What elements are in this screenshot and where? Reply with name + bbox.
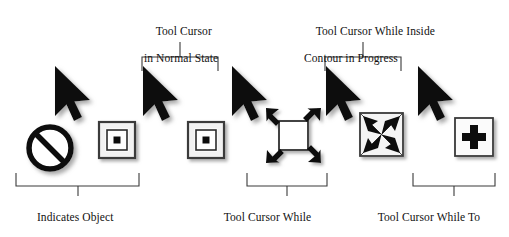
bracket-center-contour: [413, 173, 495, 196]
label-incompatible-line1: Indicates Object: [37, 211, 114, 223]
label-center-contour: Tool Cursor While To Center Contour in P…: [366, 197, 494, 237]
four-inward-arrows-square-icon: [360, 113, 403, 156]
group-incompatible: [29, 66, 135, 169]
label-inside-contour-line1: Tool Cursor While Inside: [316, 25, 435, 37]
bracket-outside-contour: [247, 173, 327, 196]
label-center-contour-line1: Tool Cursor While To: [378, 211, 481, 223]
label-normal-state-line1: Tool Cursor: [156, 25, 212, 37]
plus-cross-square-icon: [455, 118, 493, 156]
label-incompatible: Indicates Object Incompatible for Contou…: [25, 197, 145, 237]
cursor-icon: [232, 66, 267, 121]
cursor-icon: [55, 66, 90, 121]
diagram-canvas: Tool Cursor in Normal State Tool Cursor …: [0, 0, 509, 237]
label-outside-contour-line1: Tool Cursor While: [224, 211, 312, 223]
concentric-squares-target-icon: [99, 122, 135, 158]
label-normal-state-line2: in Normal State: [144, 52, 218, 66]
prohibition-circle-slash-icon: [29, 127, 71, 169]
four-outward-arrows-square-icon: [266, 108, 321, 163]
label-inside-contour: Tool Cursor While Inside Contour in Prog…: [304, 11, 435, 92]
concentric-squares-target-icon: [188, 122, 224, 158]
label-inside-contour-line2: Contour in Progress: [304, 52, 435, 66]
label-outside-contour: Tool Cursor While Outside Contour in Pro…: [212, 197, 345, 237]
label-normal-state: Tool Cursor in Normal State: [144, 11, 218, 92]
bracket-incompatible: [16, 173, 139, 196]
